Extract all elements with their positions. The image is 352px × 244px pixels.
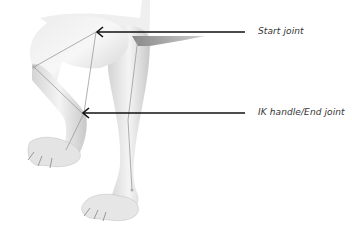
end-joint-label: IK handle/End joint	[258, 107, 345, 117]
ik-diagram: Start joint IK handle/End joint	[0, 0, 352, 244]
tail-shape	[132, 36, 205, 46]
start-joint-label: Start joint	[258, 26, 304, 36]
knee-joint	[32, 65, 36, 69]
end-joint-arrow	[83, 108, 245, 118]
character-illustration	[0, 0, 352, 244]
back-ankle-joint	[131, 189, 134, 192]
